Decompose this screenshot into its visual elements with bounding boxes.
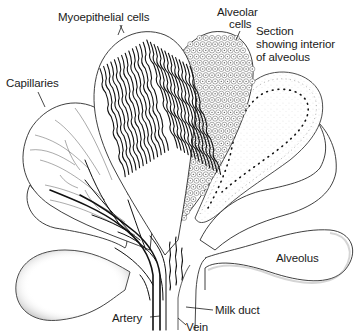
label-myoepithelial-cells: Myoepithelial cells [58,11,150,23]
label-alveolar-cells-line1: Alveolar [217,6,258,18]
alveolus-diagram: Myoepithelial cells Alveolar cells Secti… [0,0,363,335]
label-milk-duct: Milk duct [215,304,260,316]
label-section-line3: of alveolus [256,51,310,63]
label-section-line2: showing interior [256,38,335,50]
label-capillaries: Capillaries [6,77,59,89]
alveolus-lower-left [16,250,130,320]
label-artery: Artery [112,312,142,324]
milk-duct [178,258,206,330]
label-section-line1: Section [256,25,294,37]
label-vein: Vein [186,321,208,333]
label-alveolus: Alveolus [276,252,319,264]
label-alveolar-cells-line2: cells [229,18,252,30]
